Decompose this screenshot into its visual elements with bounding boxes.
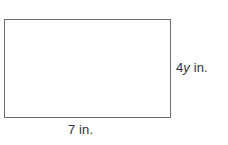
width-unit: in. — [79, 122, 93, 137]
height-unit: in. — [194, 60, 208, 75]
height-label: 4y in. — [176, 60, 208, 75]
height-variable: y — [183, 60, 190, 75]
rectangle-diagram: 4y in. 7 in. — [0, 0, 228, 145]
width-label: 7 in. — [68, 122, 93, 137]
rectangle-shape — [4, 19, 171, 118]
